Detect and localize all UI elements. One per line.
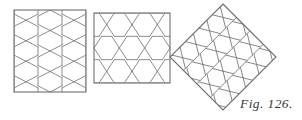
figure-caption: Fig. 126. bbox=[239, 96, 293, 111]
figure-container: Fig. 126. bbox=[0, 0, 302, 120]
figure-126-illustration: Fig. 126. bbox=[0, 0, 302, 120]
